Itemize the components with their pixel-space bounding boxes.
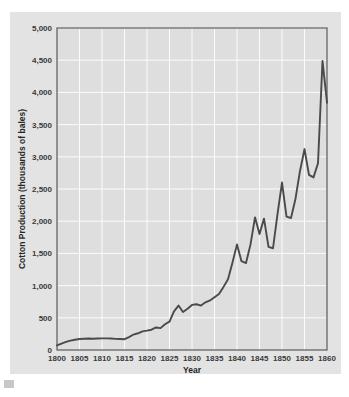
y-axis-tick-labels: 05001,0001,5002,0002,5003,0003,5004,0004… xyxy=(32,24,53,355)
y-tick-label: 4,000 xyxy=(32,88,53,97)
y-tick-label: 5,000 xyxy=(32,24,53,33)
y-tick-label: 2,500 xyxy=(32,185,53,194)
page-corner-mark xyxy=(4,380,14,388)
y-tick-label: 2,000 xyxy=(32,217,53,226)
x-tick-label: 1835 xyxy=(206,354,224,363)
cotton-production-line-chart: 05001,0001,5002,0002,5003,0003,5004,0004… xyxy=(10,12,341,374)
x-tick-label: 1830 xyxy=(183,354,201,363)
chart-figure: 05001,0001,5002,0002,5003,0003,5004,0004… xyxy=(10,12,341,374)
x-tick-label: 1845 xyxy=(251,354,269,363)
y-tick-label: 3,000 xyxy=(32,153,53,162)
y-tick-label: 1,500 xyxy=(32,249,53,258)
x-axis-tick-labels: 1800180518101815182018251830183518401845… xyxy=(48,354,336,363)
x-axis-title: Year xyxy=(183,365,202,374)
y-tick-label: 1,000 xyxy=(32,282,53,291)
y-axis-title: Cotton Production (thousands of bales) xyxy=(17,109,27,269)
x-tick-label: 1850 xyxy=(273,354,291,363)
x-tick-label: 1810 xyxy=(93,354,111,363)
x-tick-label: 1855 xyxy=(296,354,314,363)
x-tick-label: 1800 xyxy=(48,354,66,363)
y-tick-label: 500 xyxy=(39,314,53,323)
x-tick-label: 1860 xyxy=(318,354,336,363)
y-tick-label: 4,500 xyxy=(32,56,53,65)
x-tick-label: 1820 xyxy=(138,354,156,363)
x-tick-label: 1825 xyxy=(161,354,179,363)
x-tick-label: 1815 xyxy=(116,354,134,363)
x-tick-label: 1840 xyxy=(228,354,246,363)
y-tick-label: 3,500 xyxy=(32,121,53,130)
x-tick-label: 1805 xyxy=(71,354,89,363)
